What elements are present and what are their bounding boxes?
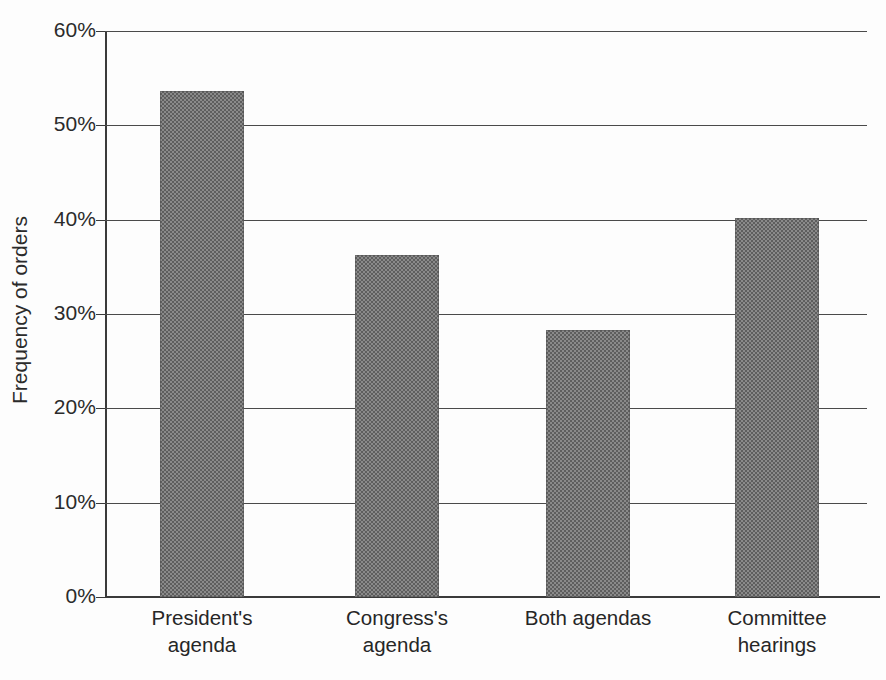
y-axis-tick [96,408,105,409]
x-axis-tick-label: Congress's agenda [287,604,507,658]
y-axis-tick-label: 30% [54,301,96,325]
y-axis-tick-label: 50% [54,112,96,136]
y-axis-tick [96,31,105,32]
y-axis-tick [96,597,105,598]
x-axis-tick-label: Committee hearings [667,604,886,658]
plot-area [105,31,867,597]
y-axis-tick-label: 20% [54,395,96,419]
x-axis-tick-label: Both agendas [478,604,698,631]
y-axis-tick [96,314,105,315]
chart-figure: Frequency of orders 0%10%20%30%40%50%60%… [0,0,886,680]
bar [546,330,630,597]
bar [355,255,439,597]
bar [160,91,244,597]
y-axis-tick [96,220,105,221]
y-axis-tick [96,503,105,504]
x-axis-tick-label: President's agenda [92,604,312,658]
bar [735,218,819,597]
y-axis-tick-label: 10% [54,490,96,514]
y-axis-tick [96,125,105,126]
y-axis-tick-label: 60% [54,18,96,42]
y-axis-tick-labels: 0%10%20%30%40%50%60% [0,0,96,680]
gridline [105,31,867,32]
y-axis-tick-label: 40% [54,207,96,231]
